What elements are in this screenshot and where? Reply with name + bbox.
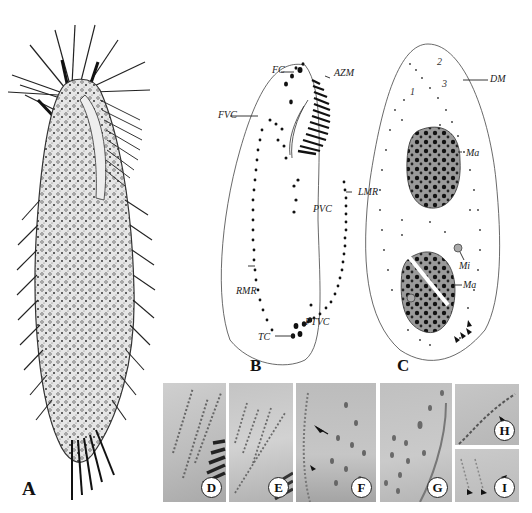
label-ma-1: Ma: [466, 147, 479, 158]
kinety-1-label: 1: [410, 86, 415, 97]
photo-panel-e: E: [229, 383, 293, 502]
label-tc: TC: [258, 331, 270, 342]
panel-label-e: E: [268, 477, 289, 498]
label-pvc: PVC: [313, 203, 332, 214]
figure: A: [0, 0, 532, 513]
panel-label-c: C: [397, 356, 409, 376]
panel-b-diagram: [190, 40, 365, 380]
label-ptvc: PTVC: [305, 316, 329, 327]
panel-label-g: G: [427, 477, 448, 498]
photo-panel-g: G: [380, 383, 452, 502]
panel-label-a: A: [22, 478, 36, 500]
label-ma-2: Ma: [463, 279, 476, 290]
kinety-3-label: 3: [442, 78, 447, 89]
photo-panel-d: D: [163, 383, 226, 502]
panel-label-h: H: [494, 420, 515, 441]
label-fc: FC: [272, 64, 285, 75]
label-mi: Mi: [459, 260, 470, 271]
label-dm: DM: [490, 73, 506, 84]
kinety-2-label: 2: [437, 56, 442, 67]
panel-label-i: I: [494, 477, 515, 498]
panel-label-d: D: [201, 477, 222, 498]
panel-a-drawing: [0, 0, 170, 510]
photo-panel-f: F: [296, 383, 376, 502]
photo-panel-i: I: [455, 449, 519, 502]
photo-panel-h: H: [455, 384, 519, 445]
label-rmr: RMR: [236, 285, 257, 296]
panel-c-diagram: [360, 40, 532, 380]
label-fvc: FVC: [218, 109, 237, 120]
label-azm: AZM: [334, 67, 354, 78]
panel-label-b: B: [250, 356, 261, 376]
panel-label-f: F: [351, 477, 372, 498]
